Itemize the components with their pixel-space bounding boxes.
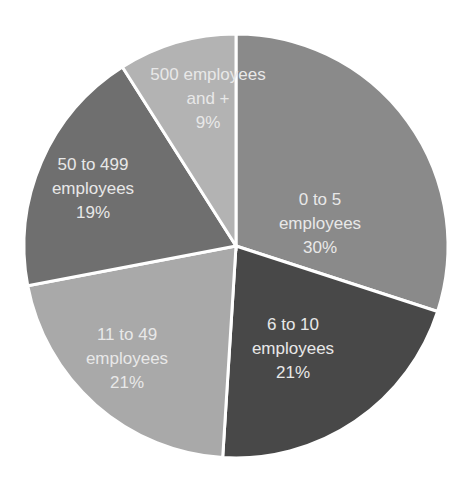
pie-chart: 0 to 5employees30%6 to 10employees21%11 … bbox=[0, 0, 465, 486]
